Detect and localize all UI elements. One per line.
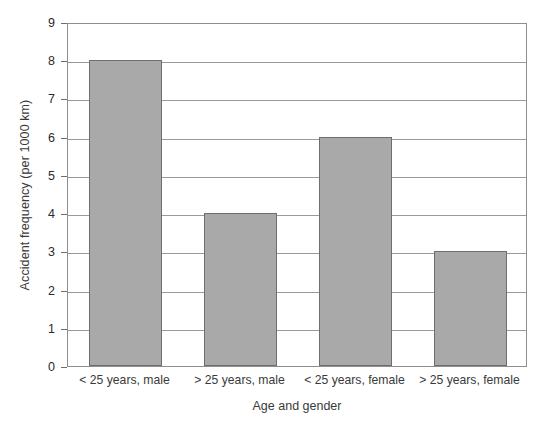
- plot-area: [67, 23, 527, 367]
- y-tick-label: 9: [35, 17, 55, 29]
- bar: [204, 213, 277, 366]
- x-axis-title: Age and gender: [67, 398, 527, 414]
- y-tick-label: 1: [35, 323, 55, 335]
- x-tick-label: > 25 years, male: [182, 372, 297, 388]
- y-tick-label: 3: [35, 246, 55, 258]
- bar: [89, 60, 162, 366]
- y-tick-label: 5: [35, 170, 55, 182]
- bar: [319, 137, 392, 366]
- y-axis-title: Accident frequency (per 1000 km): [16, 23, 34, 367]
- bar-chart-figure: Accident frequency (per 1000 km) 0123456…: [0, 0, 547, 431]
- y-tick-label: 7: [35, 93, 55, 105]
- x-tick-label: < 25 years, male: [67, 372, 182, 388]
- y-tick-label: 4: [35, 208, 55, 220]
- y-tick-label: 6: [35, 132, 55, 144]
- y-tick-mark: [61, 367, 67, 368]
- bar: [434, 251, 507, 366]
- x-tick-label: < 25 years, female: [297, 372, 412, 388]
- y-tick-label: 0: [35, 361, 55, 373]
- y-tick-label: 8: [35, 55, 55, 67]
- x-tick-label: > 25 years, female: [412, 372, 527, 388]
- y-tick-label: 2: [35, 285, 55, 297]
